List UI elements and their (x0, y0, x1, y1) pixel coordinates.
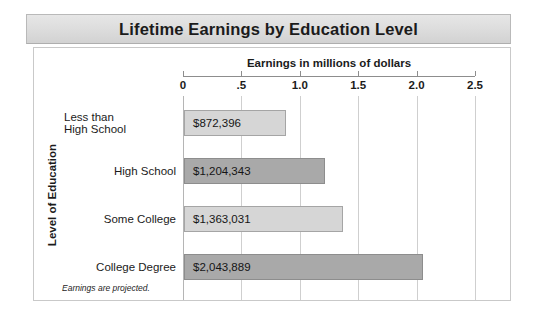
x-axis-title: Earnings in millions of dollars (183, 57, 475, 69)
x-axis-tick (358, 71, 359, 76)
x-axis-tick (417, 71, 418, 76)
bar-category-label: High School (64, 158, 176, 184)
x-axis-tick-label: 2.0 (409, 79, 425, 91)
bar-category-label: College Degree (64, 254, 176, 280)
bar-row: High School$1,204,343 (64, 158, 484, 184)
x-axis-tick (241, 71, 242, 76)
bar-row: Less thanHigh School$872,396 (64, 110, 484, 136)
bar-category-label-line: Less than (64, 111, 114, 124)
y-axis-title-text: Level of Education (46, 144, 58, 246)
bar-row: Some College$1,363,031 (64, 206, 484, 232)
x-axis-tick-label: 1.0 (292, 79, 308, 91)
bar: $1,363,031 (184, 206, 343, 232)
x-axis-tick-label: 1.5 (350, 79, 366, 91)
bar-category-label: Less thanHigh School (64, 110, 176, 136)
x-axis-tick (300, 71, 301, 76)
bar-category-label: Some College (64, 206, 176, 232)
bar: $2,043,889 (184, 254, 423, 280)
x-axis-tick-label: .5 (237, 79, 247, 91)
x-axis-line (183, 76, 475, 77)
bar-category-label-line: High School (64, 123, 126, 136)
page-title: Lifetime Earnings by Education Level (119, 20, 418, 39)
x-axis-tick (475, 71, 476, 76)
bar: $872,396 (184, 110, 286, 136)
bar-value-label: $872,396 (185, 117, 241, 129)
bar: $1,204,343 (184, 158, 325, 184)
bar-value-label: $1,204,343 (185, 165, 251, 177)
bar-value-label: $2,043,889 (185, 261, 251, 273)
x-axis-tick-label: 2.5 (467, 79, 483, 91)
chart-title-banner: Lifetime Earnings by Education Level (26, 14, 511, 44)
x-axis-tick-label: 0 (180, 79, 186, 91)
bar-row: College Degree$2,043,889 (64, 254, 484, 280)
x-axis-tick (183, 71, 184, 76)
chart-container: Lifetime Earnings by Education Level Ear… (0, 0, 537, 317)
chart-footnote: Earnings are projected. (62, 283, 150, 293)
y-axis-title: Level of Education (43, 100, 61, 290)
bar-value-label: $1,363,031 (185, 213, 251, 225)
